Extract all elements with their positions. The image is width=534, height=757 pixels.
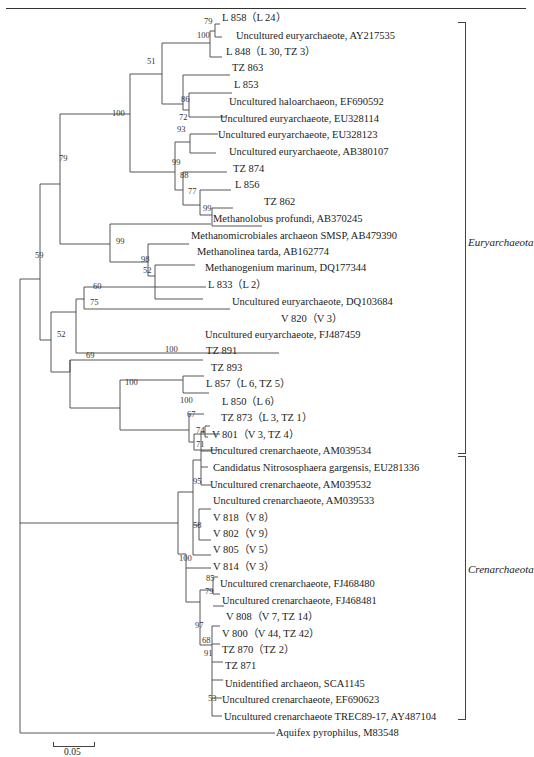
bootstrap-value: 71 [196, 440, 205, 449]
leaf-label: Candidatus Nitrososphaera gargensis, EU2… [213, 462, 419, 474]
leaf-label: V 814（V 3） [213, 561, 274, 573]
leaf-label: L 833（L 2） [208, 279, 266, 291]
bootstrap-value: 100 [197, 31, 210, 40]
leaf-label: Uncultured crenarchaeote, AM039533 [213, 495, 374, 507]
leaf-label: Uncultured haloarchaeon, EF690592 [229, 96, 384, 108]
leaf-label: L 858（L 24） [222, 12, 286, 24]
bootstrap-value: 100 [179, 554, 192, 563]
bootstrap-value: 99 [203, 204, 212, 213]
leaf-label: Methanolobus profundi, AB370245 [213, 213, 363, 225]
scale-bar-label: 0.05 [64, 747, 81, 757]
leaf-label: Uncultured crenarchaeote, FJ468480 [220, 578, 375, 590]
leaf-label: L 850（L 6） [222, 396, 280, 408]
group-label-crenarchaeota: Crenarchaeota [468, 563, 534, 575]
leaf-label: Methanolinea tarda, AB162774 [197, 246, 329, 258]
bootstrap-value: 88 [180, 171, 189, 180]
leaf-label: L 853 [234, 79, 258, 91]
leaf-label: Uncultured crenarchaeote TREC89-17, AY48… [224, 711, 436, 723]
leaf-label: V 808（V 7, TZ 14） [226, 611, 318, 623]
bootstrap-value: 74 [196, 426, 205, 435]
leaf-label: TZ 871 [225, 660, 256, 672]
leaf-label: V 820（V 3） [281, 313, 342, 325]
bootstrap-value: 86 [181, 95, 190, 104]
leaf-label: Uncultured crenarchaeote, AM039532 [210, 479, 371, 491]
bootstrap-value: 52 [143, 266, 152, 275]
bootstrap-value: 99 [116, 237, 125, 246]
bootstrap-value: 93 [177, 125, 186, 134]
leaf-label: Methanomicrobiales archaeon SMSP, AB4793… [191, 230, 397, 242]
bootstrap-value: 100 [180, 396, 193, 405]
leaf-label: V 801（V 3, TZ 4） [212, 429, 299, 441]
leaf-label: TZ 863 [232, 62, 263, 74]
leaf-label: V 802（V 9） [213, 528, 274, 540]
bootstrap-value: 67 [187, 410, 196, 419]
leaf-label: Uncultured crenarchaeote, EF690623 [222, 694, 379, 706]
leaf-label: Uncultured crenarchaeote, FJ468481 [222, 595, 377, 607]
bootstrap-value: 79 [204, 17, 213, 26]
bootstrap-value: 68 [202, 636, 211, 645]
leaf-label: Uncultured euryarchaeote, AY217535 [236, 30, 395, 42]
leaf-label: L 856 [235, 179, 259, 191]
leaf-label: V 800（V 44, TZ 42） [222, 628, 319, 640]
bootstrap-value: 99 [172, 158, 181, 167]
leaf-label: TZ 873（L 3, TZ 1） [221, 412, 312, 424]
bootstrap-value: 51 [147, 57, 156, 66]
leaf-label: Aquifex pyrophilus, M83548 [276, 727, 399, 739]
bootstrap-value: 100 [125, 378, 138, 387]
bootstrap-value: 100 [165, 345, 178, 354]
leaf-label: TZ 891 [206, 345, 237, 357]
bootstrap-value: 69 [86, 351, 95, 360]
leaf-label: TZ 862 [264, 196, 295, 208]
leaf-label: Uncultured euryarchaeote, FJ487459 [205, 329, 360, 341]
leaf-label: TZ 893 [211, 362, 242, 374]
group-label-euryarchaeota: Euryarchaeota [468, 236, 534, 248]
bootstrap-value: 95 [193, 477, 202, 486]
leaf-label: Unidentified archaeon, SCA1145 [225, 678, 365, 690]
bootstrap-value: 58 [193, 521, 202, 530]
leaf-label: V 818（V 8） [213, 512, 274, 524]
leaf-label: TZ 870（TZ 2） [222, 644, 294, 656]
leaf-label: Uncultured euryarchaeote, EU328123 [218, 129, 377, 141]
bootstrap-value: 85 [206, 574, 215, 583]
leaf-label: Uncultured euryarchaeote, EU328114 [220, 113, 379, 125]
bootstrap-value: 79 [59, 154, 68, 163]
leaf-label: Methanogenium marinum, DQ177344 [205, 262, 366, 274]
bootstrap-value: 77 [188, 187, 197, 196]
bootstrap-value: 79 [205, 587, 214, 596]
bootstrap-value: 53 [208, 694, 217, 703]
bootstrap-value: 72 [179, 113, 188, 122]
leaf-label: Uncultured euryarchaeote, DQ103684 [232, 296, 393, 308]
leaf-label: L 857（L 6, TZ 5） [206, 378, 290, 390]
bootstrap-value: 97 [195, 621, 204, 630]
leaf-label: L 848（L 30, TZ 3） [226, 46, 315, 58]
bootstrap-value: 98 [141, 255, 150, 264]
bootstrap-value: 59 [35, 251, 44, 260]
euryarchaeota-bracket [458, 22, 466, 454]
leaf-label: TZ 874 [233, 163, 264, 175]
bootstrap-value: 100 [112, 109, 125, 118]
bootstrap-value: 91 [204, 649, 213, 658]
leaf-label: Uncultured crenarchaeote, AM039534 [210, 445, 371, 457]
bootstrap-value: 60 [93, 282, 102, 291]
leaf-label: V 805（V 5） [213, 544, 274, 556]
bootstrap-value: 75 [90, 298, 99, 307]
bootstrap-value: 52 [57, 330, 66, 339]
crenarchaeota-bracket [458, 456, 466, 720]
leaf-label: Uncultured euryarchaeote, AB380107 [229, 146, 389, 158]
